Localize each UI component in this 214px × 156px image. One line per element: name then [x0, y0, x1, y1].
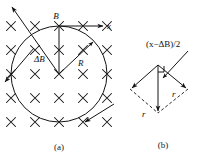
- tangent-arrow-left: [5, 48, 34, 82]
- figure-container: B x ΔB R (a) (x−ΔB)/2 r r: [0, 0, 214, 156]
- cross-icon: [103, 46, 112, 55]
- cross-icon: [55, 94, 64, 103]
- cross-icon: [79, 46, 88, 55]
- expression-pointer-arrow: [163, 51, 188, 78]
- cross-icon: [31, 118, 40, 127]
- label-r-right: r: [172, 89, 176, 99]
- cross-icon: [7, 46, 16, 55]
- label-delta-b: ΔB: [33, 54, 45, 64]
- cross-icon: [31, 22, 40, 31]
- cross-icon: [79, 118, 88, 127]
- cross-icon: [31, 70, 40, 79]
- cross-icon: [103, 94, 112, 103]
- component-vector-left-arrow: [132, 65, 158, 88]
- label-radius-r: R: [77, 58, 84, 68]
- label-x-axis: x: [106, 21, 111, 31]
- cross-icon: [7, 94, 16, 103]
- panel-b-caption: (b): [158, 140, 169, 150]
- cross-icon: [31, 94, 40, 103]
- cross-icon: [79, 94, 88, 103]
- cross-icon: [103, 118, 112, 127]
- cross-icon: [7, 118, 16, 127]
- panel-a-caption: (a): [54, 142, 64, 152]
- cross-icon: [7, 22, 16, 31]
- physics-figure: B x ΔB R (a) (x−ΔB)/2 r r: [0, 0, 214, 156]
- label-expression: (x−ΔB)/2: [146, 39, 180, 49]
- label-b-vector: B: [53, 11, 59, 21]
- panel-a: B x ΔB R (a): [5, 7, 114, 152]
- label-r-bottom: r: [142, 109, 146, 119]
- panel-b: (x−ΔB)/2 r r (b): [130, 39, 188, 150]
- cross-icon: [79, 70, 88, 79]
